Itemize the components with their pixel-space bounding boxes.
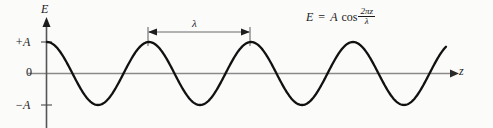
y-tick-label-minus-a: −A bbox=[15, 99, 30, 111]
equation-denominator: λ bbox=[358, 16, 375, 26]
equation-equals-sign: = bbox=[318, 10, 325, 25]
y-tick-label-zero: 0 bbox=[26, 66, 32, 78]
wave-diagram-figure: E z +A 0 −A λ E = A cos 2πz λ bbox=[0, 0, 493, 128]
wave-plot-svg bbox=[0, 0, 493, 128]
y-tick-label-plus-a: +A bbox=[15, 36, 30, 48]
z-axis-arrowhead bbox=[450, 70, 459, 78]
lambda-arrowhead-left bbox=[148, 28, 157, 35]
y-axis-label: E bbox=[41, 3, 48, 15]
wave-equation: E = A cos 2πz λ bbox=[306, 8, 375, 28]
equation-lhs: E bbox=[306, 10, 313, 25]
x-axis-label: z bbox=[459, 65, 464, 77]
equation-amplitude: A bbox=[330, 10, 337, 25]
equation-fraction: 2πz λ bbox=[358, 7, 375, 27]
lambda-arrowhead-right bbox=[241, 28, 250, 35]
equation-numerator: 2πz bbox=[358, 7, 375, 16]
equation-cos-function: cos bbox=[341, 10, 357, 25]
e-axis-arrowhead bbox=[43, 17, 51, 27]
wavelength-label: λ bbox=[192, 18, 197, 29]
